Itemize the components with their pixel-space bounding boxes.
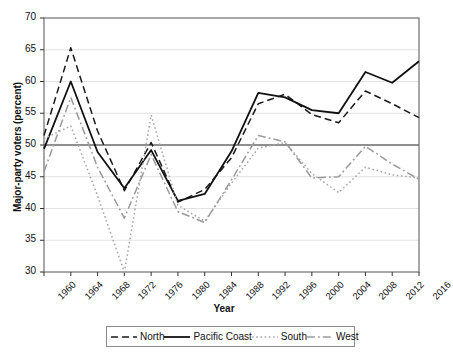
legend-item-south[interactable]: South [252,331,307,342]
y-tick-label: 70 [10,11,36,22]
legend-label: North [140,331,164,342]
y-tick-label: 35 [10,233,36,244]
legend-label: Pacific Coast [193,331,251,342]
y-tick-label: 60 [10,75,36,86]
y-tick-label: 45 [10,170,36,181]
y-tick-label: 50 [10,138,36,149]
legend-label: South [281,331,307,342]
x-axis-title: Year [0,303,448,314]
solid-line-icon [164,332,190,342]
y-tick-label: 30 [10,265,36,276]
y-tick-label: 40 [10,202,36,213]
chart-legend: NorthPacific CoastSouthWest [106,326,355,347]
legend-item-pacific-coast[interactable]: Pacific Coast [164,331,251,342]
dashed-line-icon [111,332,137,342]
legend-item-west[interactable]: West [307,331,359,342]
dashdot-line-icon [307,332,333,342]
legend-item-north[interactable]: North [111,331,164,342]
legend-label: West [336,331,359,342]
dotted-line-icon [252,332,278,342]
series-line-west [44,97,419,222]
y-tick-label: 65 [10,43,36,54]
x-tick-marks [44,272,419,276]
y-tick-label: 55 [10,106,36,117]
